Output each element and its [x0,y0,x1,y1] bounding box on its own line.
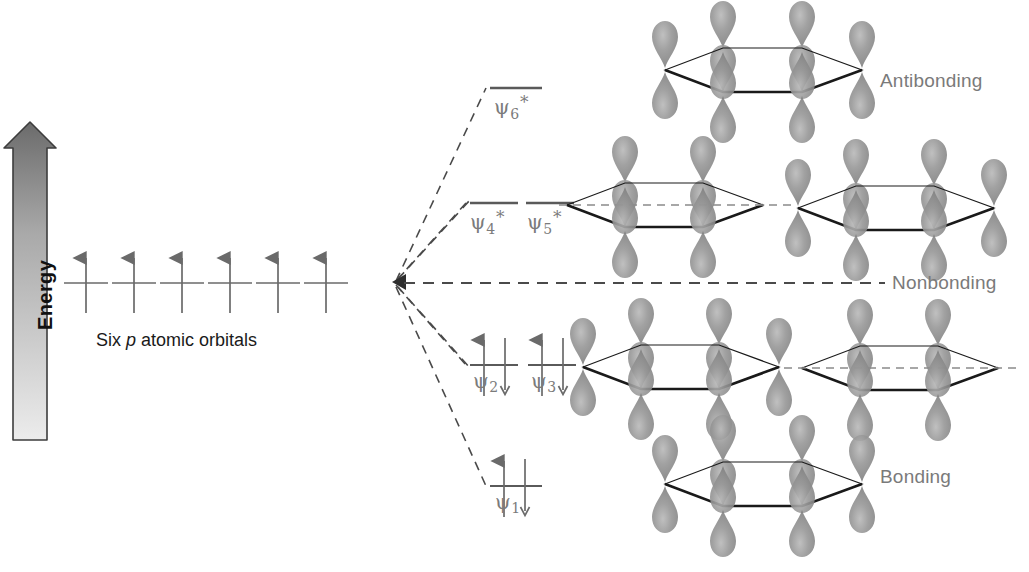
psi-star: * [495,207,505,227]
orbital-picture-psi5 [785,139,1007,281]
atomic-orbital-level [64,258,108,313]
mo-label-psi6: ψ6* [494,92,529,122]
benzene-ring [665,462,862,506]
lobes-below [847,350,951,441]
region-label-nonbonding: Nonbonding [892,272,996,294]
mo-diagram-figure: Energy Six p atomic orbitals ψ6* ψ4* ψ5*… [0,0,1029,572]
mo-level-lines [470,88,576,486]
psi-symbol: ψ [470,210,486,234]
mo-label-psi1: ψ1 [495,490,520,516]
atomic-orbital-levels [64,258,348,313]
lobes-below [785,190,1007,281]
psi-star: * [552,207,562,227]
lobes-below [612,187,716,278]
atomic-orbital-level [256,258,300,313]
mo-label-psi3: ψ3 [531,369,556,395]
psi-star: * [519,92,529,112]
correlation-lines [396,88,486,486]
atomic-orbital-level [160,258,204,313]
region-label-antibonding: Antibonding [880,70,983,92]
correlation-line-psi3 [398,287,470,368]
orbital-picture-psi3 [784,299,1018,441]
energy-axis-label: Energy [34,260,57,330]
mo-label-psi5: ψ5* [527,207,562,237]
caption-prefix: Six [96,330,126,350]
atomic-orbitals-caption: Six p atomic orbitals [96,330,257,351]
psi-symbol: ψ [473,369,489,393]
benzene-ring [798,186,994,230]
benzene-ring [583,345,779,389]
psi-symbol: ψ [495,490,511,514]
orbital-picture-psi6 [652,1,875,143]
psi-index: 4 [486,221,495,237]
mo-label-psi4: ψ4* [470,207,505,237]
psi-index: 1 [511,500,520,516]
correlation-line-psi6 [396,88,486,281]
lobes-below [652,466,875,557]
orbital-picture-psi1 [652,415,875,557]
orbital-picture-psi4 [559,136,795,278]
psi-symbol: ψ [531,369,547,393]
psi-index: 3 [547,379,556,395]
psi-index: 5 [543,221,552,237]
diagram-canvas [0,0,1029,572]
benzene-ring [665,48,862,92]
atomic-orbital-level [112,258,156,313]
psi-symbol: ψ [494,95,510,119]
caption-suffix: atomic orbitals [136,330,257,350]
lobes-below [570,349,792,440]
psi-index: 6 [510,106,519,122]
region-label-bonding: Bonding [880,466,951,488]
psi-index: 2 [489,379,498,395]
correlation-line-psi5 [398,200,470,279]
psi-symbol: ψ [527,210,543,234]
lobes-below [652,52,875,143]
orbital-picture-psi2 [570,298,792,440]
mo-label-psi2: ψ2 [473,369,498,395]
caption-italic-p: p [126,330,136,350]
atomic-orbital-level [208,258,252,313]
atomic-orbital-level [304,258,348,313]
